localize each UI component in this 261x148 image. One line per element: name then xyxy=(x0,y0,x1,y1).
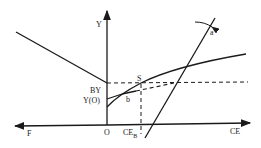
x-axis-f xyxy=(15,125,107,126)
label-s: S xyxy=(137,74,141,83)
label-ce-b: CEB xyxy=(123,128,137,139)
label-y: Y xyxy=(96,20,102,29)
label-ce: CE xyxy=(230,127,240,136)
steep-line-a xyxy=(145,18,215,138)
yo-line-dashed xyxy=(136,83,174,91)
label-f: F xyxy=(27,129,32,138)
label-b: b xyxy=(126,95,130,104)
label-ce-b-sub: B xyxy=(133,133,137,139)
label-yo: Y(O) xyxy=(83,96,100,105)
label-ce-b-main: CE xyxy=(123,128,133,137)
left-tradeoff-line xyxy=(16,32,107,83)
x-axis-ce xyxy=(107,123,250,125)
label-by: BY xyxy=(90,86,101,95)
label-a: a xyxy=(210,28,214,37)
diagram-canvas: Y CE F O BY Y(O) S b a CEB xyxy=(0,0,261,148)
label-origin: O xyxy=(104,128,110,137)
economic-diagram: Y CE F O BY Y(O) S b a CEB xyxy=(0,0,261,148)
